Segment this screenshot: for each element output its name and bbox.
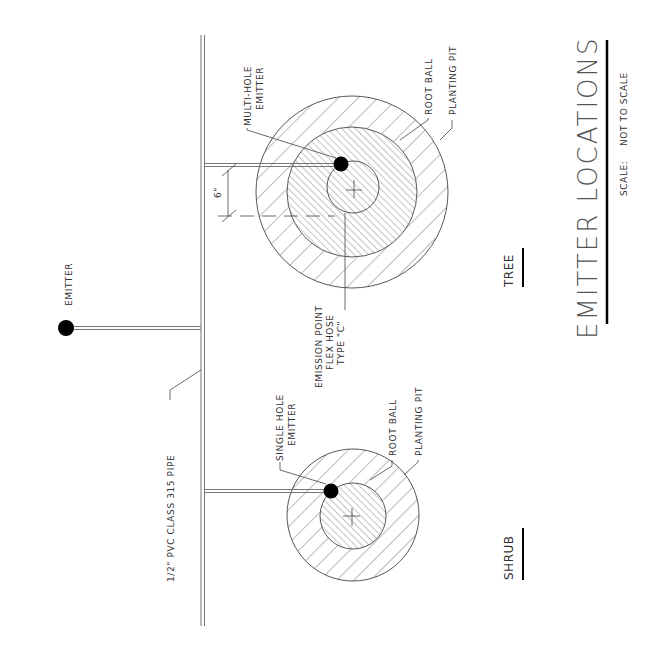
single-hole-emitter-dot xyxy=(324,484,339,499)
tree-planting-pit-label: PLANTING PIT xyxy=(448,46,458,115)
tree-dimension-label: 6" xyxy=(213,187,223,198)
single-hole-label-1: SINGLE HOLE xyxy=(275,394,285,461)
tree-heading: TREE xyxy=(502,254,516,288)
standalone-emitter-dot xyxy=(58,320,74,336)
emission-label-3: TYPE "C" xyxy=(336,321,346,366)
emission-label-2: FLEX HOSE xyxy=(325,314,335,370)
tree-planting xyxy=(256,96,448,288)
shrub-root-ball-label: ROOT BALL xyxy=(388,399,398,456)
multi-hole-label-1: MULTI-HOLE xyxy=(243,66,253,126)
multi-hole-emitter-dot xyxy=(334,157,349,172)
emission-label-1: EMISSION POINT xyxy=(314,305,324,388)
scale-value: NOT TO SCALE xyxy=(619,72,629,146)
scale-label: SCALE: xyxy=(619,161,629,197)
main-pipe xyxy=(201,35,205,626)
pipe-leader-line xyxy=(170,370,201,400)
pipe-label: 1/2" PVC CLASS 315 PIPE xyxy=(166,455,176,582)
shrub-heading: SHRUB xyxy=(502,536,516,581)
emitter-branch xyxy=(58,320,201,336)
emitter-locations-drawing: EMITTER 1/2" PVC CLASS 315 PIPE 6" MULTI… xyxy=(0,0,672,651)
shrub-planting-pit-label: PLANTING PIT xyxy=(414,387,424,456)
shrub-planting xyxy=(287,449,419,581)
single-hole-label-2: EMITTER xyxy=(287,403,297,446)
shrub-planting-pit-leader xyxy=(404,460,418,475)
tree-root-ball-label: ROOT BALL xyxy=(424,58,434,115)
drawing-title: EMITTER LOCATIONS xyxy=(573,36,603,339)
tree-planting-pit-leader xyxy=(440,120,452,140)
multi-hole-label-2: EMITTER xyxy=(255,67,265,110)
standalone-emitter-label: EMITTER xyxy=(64,263,74,306)
